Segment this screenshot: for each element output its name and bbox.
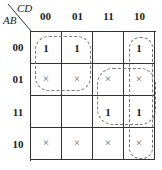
- col-header-11: 11: [93, 10, 124, 22]
- col-header-00: 00: [30, 10, 61, 22]
- kmap-corner: CD AB: [0, 0, 31, 32]
- cell-01-10: ×: [124, 64, 155, 96]
- row-header-00: 00: [8, 41, 28, 53]
- cell-10-11: ×: [93, 128, 124, 160]
- cell-00-10: 1: [124, 32, 155, 64]
- cell-10-00: ×: [31, 128, 62, 160]
- cell-01-11: ×: [93, 64, 124, 96]
- cell-11-10: 1: [124, 96, 155, 128]
- kmap-grid: 1 1 1 × × × × 1 1 × × × ×: [30, 31, 156, 161]
- row-header-10: 10: [8, 138, 28, 150]
- row-header-01: 01: [8, 73, 28, 85]
- row-header-11: 11: [8, 106, 28, 118]
- cell-00-11: [93, 32, 124, 64]
- cell-01-01: ×: [62, 64, 93, 96]
- cell-10-10: ×: [124, 128, 155, 160]
- col-header-01: 01: [62, 10, 93, 22]
- row-variable-label: AB: [3, 14, 16, 26]
- cell-11-11: 1: [93, 96, 124, 128]
- cell-01-00: ×: [31, 64, 62, 96]
- cell-11-01: [62, 96, 93, 128]
- cell-00-00: 1: [31, 32, 62, 64]
- cell-10-01: ×: [62, 128, 93, 160]
- col-header-10: 10: [124, 10, 155, 22]
- cell-00-01: 1: [62, 32, 93, 64]
- cell-11-00: [31, 96, 62, 128]
